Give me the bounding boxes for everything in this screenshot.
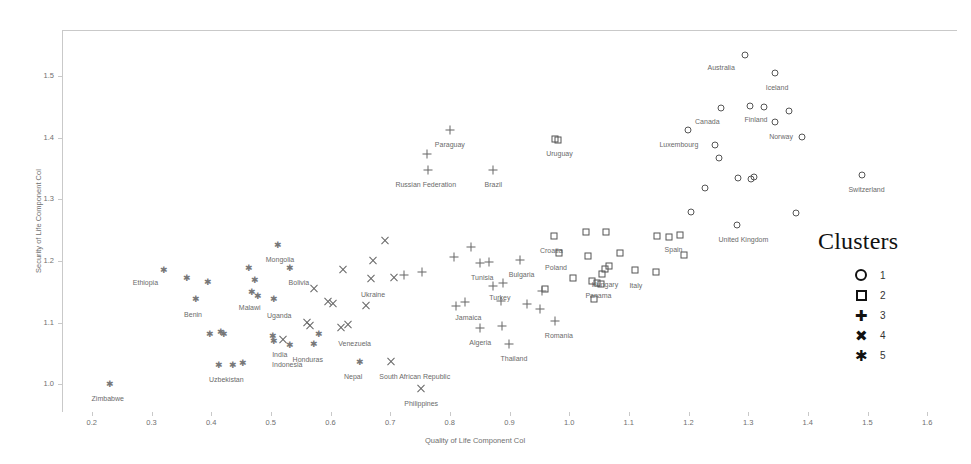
point-label: Ethiopia (133, 279, 158, 286)
data-point-square (603, 229, 610, 236)
legend-item-label: 5 (880, 350, 886, 361)
data-point-asterisk: ✱ (286, 265, 293, 272)
x-tick-mark (271, 412, 272, 416)
x-axis-title-text: Quality of Life Component Col (425, 436, 525, 445)
y-tick-label: 1.5 (36, 71, 54, 80)
data-point-plus (488, 282, 497, 291)
data-point-circle (751, 174, 758, 181)
x-tick-label: 0.8 (442, 418, 458, 427)
data-point-plus (423, 165, 432, 174)
x-tick-label: 1.6 (919, 418, 935, 427)
circle-icon (850, 268, 872, 283)
data-point-circle (734, 222, 741, 229)
data-point-asterisk: ✱ (286, 342, 293, 349)
x-tick-mark (808, 412, 809, 416)
data-point-circle (746, 102, 753, 109)
y-tick-label: 1.4 (36, 133, 54, 142)
legend: Clusters 12✚3✖4✱5 (818, 228, 958, 365)
data-point-cross (381, 237, 389, 245)
y-tick-mark (58, 261, 62, 262)
x-tick-mark (331, 412, 332, 416)
legend-item-4[interactable]: ✖4 (850, 325, 958, 345)
data-point-square (570, 275, 577, 282)
x-tick-label: 0.6 (323, 418, 339, 427)
data-point-asterisk: ✱ (239, 360, 246, 367)
x-tick-mark (927, 412, 928, 416)
data-point-circle (702, 185, 709, 192)
data-point-plus (423, 150, 432, 159)
legend-item-5[interactable]: ✱5 (850, 345, 958, 365)
x-tick-label: 0.5 (263, 418, 279, 427)
data-point-cross (310, 285, 318, 293)
data-point-plus (515, 255, 524, 264)
y-tick-mark (58, 384, 62, 385)
square-icon (850, 288, 872, 303)
y-tick-label: 1.0 (36, 379, 54, 388)
legend-item-3[interactable]: ✚3 (850, 305, 958, 325)
point-label: Algeria (469, 339, 491, 346)
cross-icon: ✖ (850, 328, 872, 343)
data-point-cross (367, 275, 375, 283)
point-label: Zimbabwe (92, 395, 124, 402)
data-point-circle (718, 105, 725, 112)
x-tick-label: 1.1 (621, 418, 637, 427)
point-label: Benin (184, 311, 202, 318)
x-tick-label: 1.0 (561, 418, 577, 427)
data-point-square (585, 252, 592, 259)
data-point-circle (772, 70, 779, 77)
x-tick-label: 1.4 (800, 418, 816, 427)
data-point-cross (339, 266, 347, 274)
y-tick-mark (58, 199, 62, 200)
data-point-square (616, 250, 623, 257)
data-point-plus (504, 339, 513, 348)
data-point-asterisk: ✱ (245, 264, 252, 271)
legend-item-2[interactable]: 2 (850, 285, 958, 305)
data-point-circle (772, 119, 779, 126)
data-point-square (680, 251, 687, 258)
data-point-square (551, 232, 558, 239)
x-axis-title: Quality of Life Component Col (425, 436, 525, 445)
data-point-plus (451, 302, 460, 311)
x-tick-label: 1.2 (681, 418, 697, 427)
x-tick-label: 0.7 (382, 418, 398, 427)
data-point-asterisk: ✱ (106, 381, 113, 388)
point-label: Iceland (766, 84, 789, 91)
x-tick-mark (569, 412, 570, 416)
point-label: Philippines (404, 400, 438, 407)
data-point-square (555, 137, 562, 144)
point-label: Jamaica (455, 314, 481, 321)
data-point-plus (537, 286, 546, 295)
point-label: Italy (629, 282, 642, 289)
point-label: South African Republic (379, 373, 450, 380)
legend-item-label: 4 (880, 330, 886, 341)
data-point-cross (344, 321, 352, 329)
x-tick-label: 0.9 (502, 418, 518, 427)
x-tick-label: 1.5 (860, 418, 876, 427)
data-point-asterisk: ✱ (270, 296, 277, 303)
point-label: Romania (545, 332, 573, 339)
y-tick-label: 1.2 (36, 256, 54, 265)
data-point-square (597, 281, 604, 288)
data-point-plus (399, 270, 408, 279)
point-label: India (272, 351, 287, 358)
data-point-square (556, 250, 563, 257)
data-point-circle (761, 104, 768, 111)
x-tick-label: 0.3 (144, 418, 160, 427)
point-label: Canada (695, 118, 720, 125)
point-label: Honduras (293, 356, 323, 363)
scatter-chart-page: Security of Life Component Col Quality o… (0, 0, 971, 464)
legend-item-label: 1 (880, 270, 886, 281)
data-point-circle (715, 155, 722, 162)
data-point-circle (858, 171, 865, 178)
data-point-cross (390, 274, 398, 282)
data-point-plus (550, 316, 559, 325)
point-label: Brazil (485, 181, 503, 188)
x-tick-mark (510, 412, 511, 416)
point-label: Bolivia (289, 279, 310, 286)
data-point-plus (523, 300, 532, 309)
y-tick-label: 1.3 (36, 194, 54, 203)
y-tick-mark (58, 138, 62, 139)
data-point-asterisk: ✱ (356, 359, 363, 366)
legend-item-1[interactable]: 1 (850, 265, 958, 285)
x-tick-mark (211, 412, 212, 416)
